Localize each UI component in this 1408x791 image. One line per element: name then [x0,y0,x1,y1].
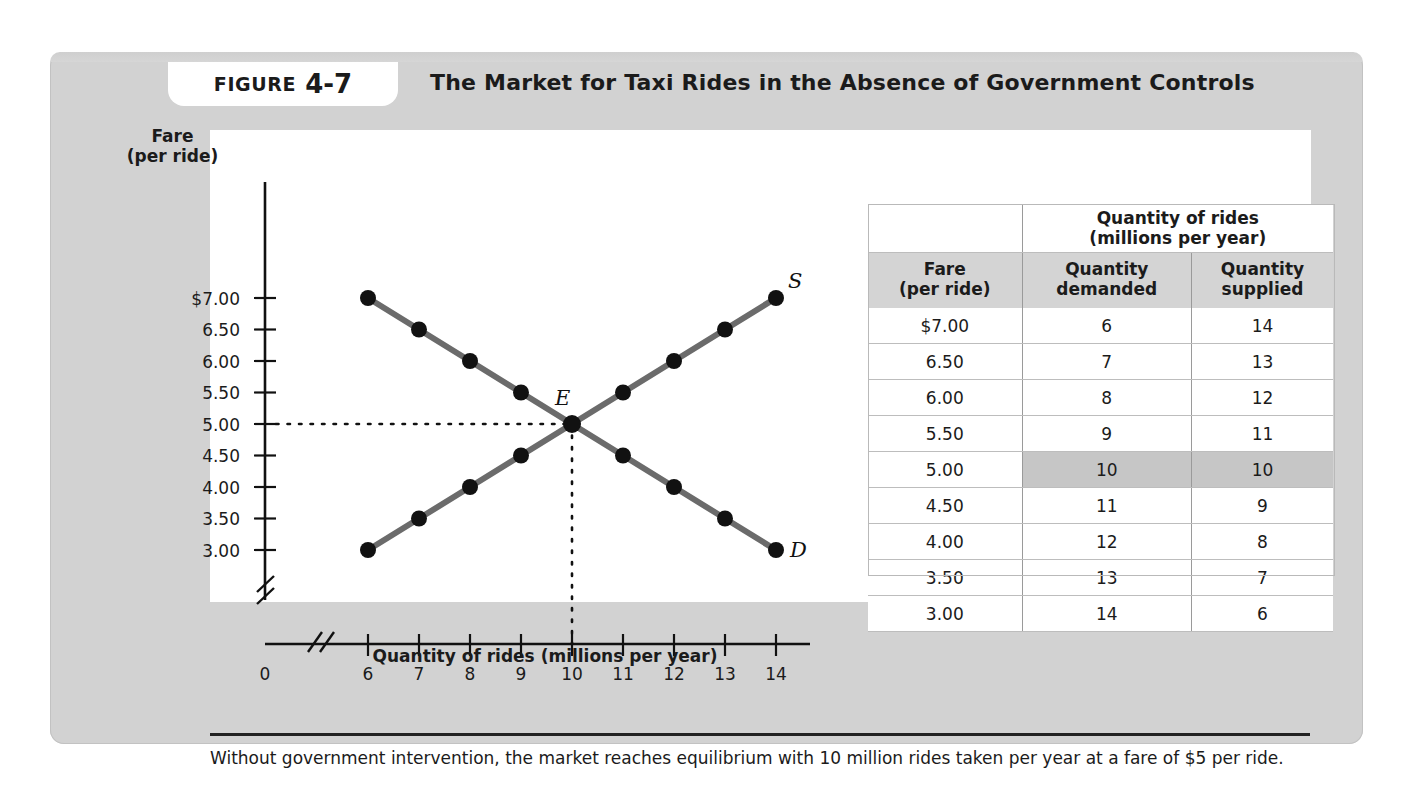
figure-content-area: Fare (per ride) [210,130,1311,602]
group-header-line1: Quantity of rides [1027,208,1329,228]
y-tick-label-5-50: 5.50 [130,383,240,403]
cell-fare: 3.50 [868,560,1022,596]
y-tick-label-3-50: 3.50 [130,509,240,529]
x-tick-label-7: 7 [404,664,434,684]
cell-fare: 3.00 [868,596,1022,632]
cell-supplied: 8 [1191,524,1333,560]
figure-caption: Without government intervention, the mar… [210,746,1320,771]
table-row: 6.50 7 13 [868,344,1333,380]
cell-demanded: 8 [1022,380,1191,416]
y-tick-label-3-00: 3.00 [130,541,240,561]
cell-fare: 4.50 [868,488,1022,524]
cell-demanded: 6 [1022,308,1191,344]
cell-demanded: 7 [1022,344,1191,380]
column-header-quantity-demanded: Quantity demanded [1022,253,1191,309]
x-axis-title: Quantity of rides (millions per year) [235,646,855,666]
equilibrium-point [563,415,581,433]
x-tick-label-10: 10 [557,664,587,684]
cell-fare: 5.50 [868,416,1022,452]
y-tick-label-6-50: 6.50 [130,320,240,340]
table-group-header-row: Quantity of rides (millions per year) [868,204,1333,253]
column-header-supplied-line2: supplied [1196,279,1329,299]
cell-demanded: 9 [1022,416,1191,452]
cell-supplied: 9 [1191,488,1333,524]
cell-supplied: 13 [1191,344,1333,380]
figure-label: FIGURE [214,73,296,95]
table-row: 5.50 9 11 [868,416,1333,452]
cell-demanded: 12 [1022,524,1191,560]
cell-demanded: 10 [1022,452,1191,488]
table-body: $7.00 6 14 6.50 7 13 6.00 8 12 [868,308,1333,632]
cell-demanded: 13 [1022,560,1191,596]
cell-supplied: 6 [1191,596,1333,632]
column-header-supplied-line1: Quantity [1196,259,1329,279]
x-tick-label-12: 12 [659,664,689,684]
cell-supplied: 12 [1191,380,1333,416]
panel-top-shade [50,52,1363,62]
cell-fare: 4.00 [868,524,1022,560]
group-header-spacer [868,204,1022,253]
table-column-header-row: Fare (per ride) Quantity demanded Quanti… [868,253,1333,309]
column-header-quantity-supplied: Quantity supplied [1191,253,1333,309]
table-row: 4.00 12 8 [868,524,1333,560]
supply-demand-chart: Fare (per ride) [210,130,830,602]
supply-demand-table: Quantity of rides (millions per year) Fa… [868,204,1333,574]
x-tick-label-8: 8 [455,664,485,684]
x-tick-label-6: 6 [353,664,383,684]
caption-divider [210,733,1310,736]
cell-supplied: 14 [1191,308,1333,344]
column-header-demanded-line2: demanded [1027,279,1187,299]
table-row: 6.00 8 12 [868,380,1333,416]
x-tick-label-13: 13 [710,664,740,684]
cell-fare: $7.00 [868,308,1022,344]
column-header-fare: Fare (per ride) [868,253,1022,309]
cell-demanded: 11 [1022,488,1191,524]
cell-fare: 6.00 [868,380,1022,416]
y-tick-label-4-50: 4.50 [130,446,240,466]
group-header-line2: (millions per year) [1027,228,1329,248]
column-header-fare-line1: Fare [872,259,1018,279]
cell-supplied: 11 [1191,416,1333,452]
column-header-fare-line2: (per ride) [872,279,1018,299]
figure-number-tab: FIGURE 4-7 [168,62,398,106]
x-tick-label-11: 11 [608,664,638,684]
y-tick-label-6-00: 6.00 [130,352,240,372]
supply-curve-label: S [788,269,802,293]
figure-title: The Market for Taxi Rides in the Absence… [430,70,1255,95]
figure-panel: FIGURE 4-7 The Market for Taxi Rides in … [50,52,1363,744]
x-axis-origin-label: 0 [250,664,280,684]
cell-fare: 6.50 [868,344,1022,380]
x-tick-label-14: 14 [761,664,791,684]
table-row: 3.00 14 6 [868,596,1333,632]
cell-supplied: 7 [1191,560,1333,596]
table-row: 4.50 11 9 [868,488,1333,524]
table-row-equilibrium: 5.00 10 10 [868,452,1333,488]
table-head: Quantity of rides (millions per year) Fa… [868,204,1333,308]
cell-demanded: 14 [1022,596,1191,632]
chart-svg [210,130,830,630]
figure-root: FIGURE 4-7 The Market for Taxi Rides in … [0,0,1408,791]
y-tick-label-4-00: 4.00 [130,478,240,498]
demand-curve-label: D [790,538,807,562]
figure-number: 4-7 [305,69,352,99]
x-tick-label-9: 9 [506,664,536,684]
data-table: Quantity of rides (millions per year) Fa… [868,204,1333,632]
y-tick-label-5-00: 5.00 [130,415,240,435]
y-tick-label-7-00: $7.00 [130,289,240,309]
column-header-demanded-line1: Quantity [1027,259,1187,279]
table-row: $7.00 6 14 [868,308,1333,344]
cell-supplied: 10 [1191,452,1333,488]
cell-fare: 5.00 [868,452,1022,488]
table-row: 3.50 13 7 [868,560,1333,596]
equilibrium-label: E [555,386,570,410]
group-header-quantity: Quantity of rides (millions per year) [1022,204,1333,253]
